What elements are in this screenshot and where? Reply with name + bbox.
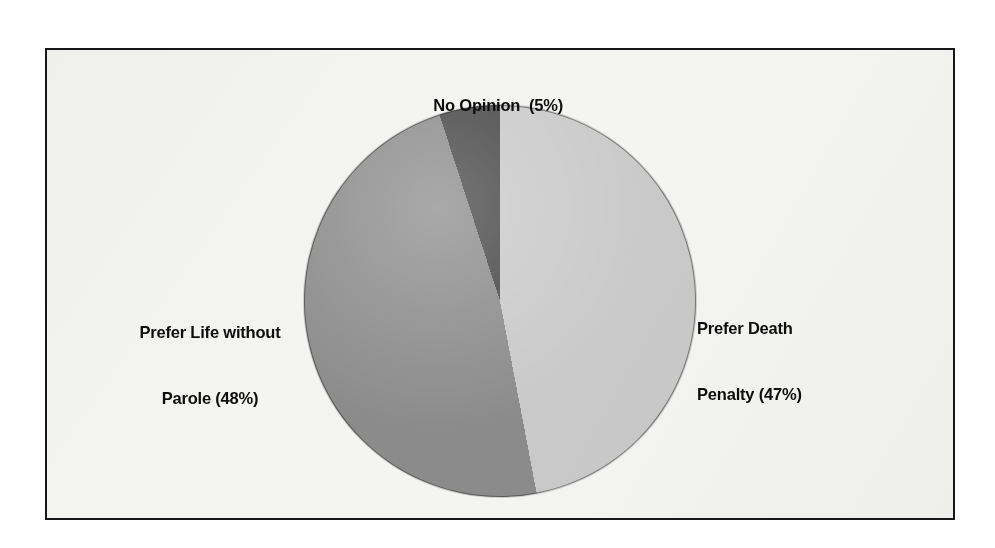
slice-label-no-opinion: No Opinion (5%) [335,72,635,139]
page-background: No Opinion (5%) Prefer Death Penalty (47… [0,0,995,548]
chart-frame: No Opinion (5%) Prefer Death Penalty (47… [45,48,955,520]
pie-chart [304,105,696,497]
slice-label-no-opinion-text: No Opinion (5%) [433,96,563,114]
slice-label-death-penalty-line-2: Penalty (47%) [697,383,907,405]
slice-label-death-penalty: Prefer Death Penalty (47%) [697,272,907,450]
pie-disc [304,105,696,497]
slice-label-life-without-parole: Prefer Life without Parole (48%) [95,276,325,454]
slice-label-life-without-parole-line-1: Prefer Life without [95,321,325,343]
pie-outline [304,105,696,497]
slice-label-death-penalty-line-1: Prefer Death [697,317,907,339]
slice-label-life-without-parole-line-2: Parole (48%) [95,387,325,409]
